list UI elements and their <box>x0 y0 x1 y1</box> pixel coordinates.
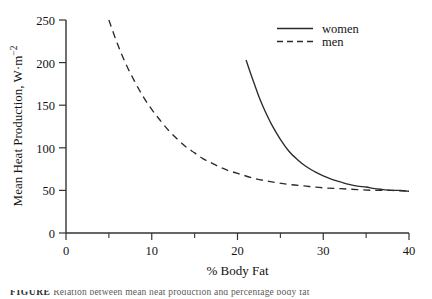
x-ticklabel-20: 20 <box>231 244 244 258</box>
x-axis-ticks <box>66 233 409 240</box>
x-axis-ticklabels: 0 10 20 30 40 <box>63 244 415 258</box>
series-line-men <box>109 20 409 191</box>
svg-text:Mean Heat Production, W·m−2: Mean Heat Production, W·m−2 <box>9 45 25 206</box>
chart-canvas: 0 50 100 150 200 250 0 10 20 30 <box>0 0 432 290</box>
y-ticklabel-200: 200 <box>36 57 55 71</box>
y-ticklabel-0: 0 <box>49 227 55 241</box>
x-axis-title: % Body Fat <box>206 263 269 278</box>
x-ticklabel-30: 30 <box>317 244 330 258</box>
caption-rest: Relation between mean heat production an… <box>53 290 309 297</box>
figure-caption: FIGURE Relation between mean heat produc… <box>0 290 432 299</box>
y-ticklabel-250: 250 <box>36 14 55 28</box>
y-axis-ticks <box>59 20 66 233</box>
y-ticklabel-50: 50 <box>43 184 56 198</box>
series-line-women <box>246 60 409 191</box>
x-ticklabel-40: 40 <box>403 244 416 258</box>
x-ticklabel-0: 0 <box>63 244 69 258</box>
figure-container: 0 50 100 150 200 250 0 10 20 30 <box>0 0 432 299</box>
y-axis-title-main: Mean Heat Production, W·m <box>10 56 25 207</box>
x-ticklabel-10: 10 <box>146 244 159 258</box>
y-axis-title: Mean Heat Production, W·m−2 <box>9 45 25 206</box>
legend-label-men: men <box>322 35 344 49</box>
y-ticklabel-150: 150 <box>36 99 55 113</box>
y-axis-ticklabels: 0 50 100 150 200 250 <box>36 14 55 241</box>
legend-label-women: women <box>322 22 360 36</box>
y-axis-title-exponent: −2 <box>9 45 19 55</box>
caption-label: FIGURE <box>10 290 51 297</box>
y-ticklabel-100: 100 <box>36 142 55 156</box>
legend: women men <box>277 22 360 49</box>
